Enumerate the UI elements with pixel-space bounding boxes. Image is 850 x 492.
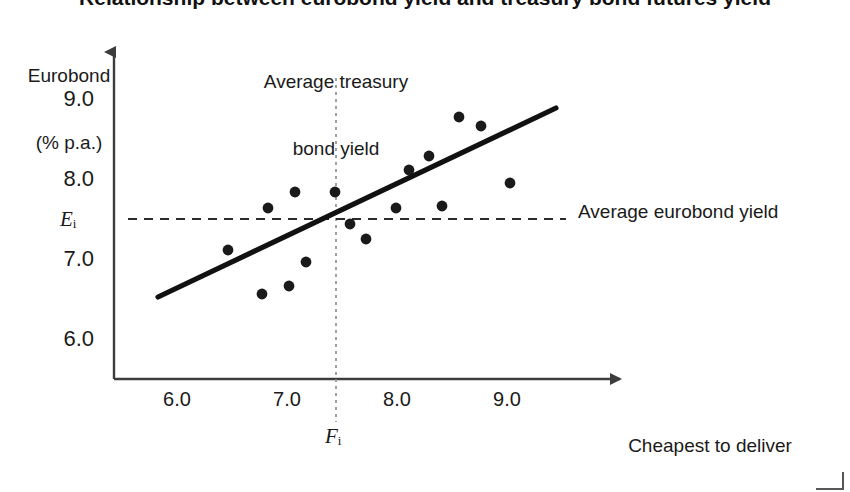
x-tick-7: 7.0: [257, 388, 317, 412]
data-point: [476, 121, 487, 132]
e-i-axis-symbol: Ei: [60, 207, 76, 232]
treasury-average-annotation: Average treasury bond yield: [228, 26, 444, 205]
chart-title: Relationship between eurobond yield and …: [0, 0, 850, 11]
data-point: [505, 178, 516, 189]
f-i-axis-symbol: Fi: [325, 424, 341, 449]
e-i-symbol-subscript: i: [73, 216, 77, 231]
y-axis-label-line2: (% p.a.): [8, 132, 130, 154]
data-point: [345, 219, 356, 230]
e-i-symbol-letter: E: [60, 207, 73, 231]
f-i-symbol-subscript: i: [338, 433, 342, 448]
data-point: [361, 234, 372, 245]
eurobond-average-annotation: Average eurobond yield: [578, 201, 778, 223]
y-tick-9: 9.0: [34, 86, 94, 112]
x-axis-label-line1: Cheapest to deliver: [570, 434, 850, 457]
treasury-annotation-line2: bond yield: [228, 138, 444, 160]
x-tick-8: 8.0: [367, 388, 427, 412]
y-tick-8: 8.0: [34, 166, 94, 192]
data-point: [223, 245, 234, 256]
x-axis-label: Cheapest to deliver bond under the treas…: [570, 388, 850, 492]
y-tick-7: 7.0: [34, 246, 94, 272]
data-point: [301, 257, 312, 268]
x-tick-9: 9.0: [477, 388, 537, 412]
x-tick-6: 6.0: [147, 388, 207, 412]
y-tick-6: 6.0: [34, 326, 94, 352]
treasury-annotation-line1: Average treasury: [228, 71, 444, 93]
data-point: [284, 281, 295, 292]
f-i-symbol-letter: F: [325, 424, 338, 448]
y-axis-label-line1: Eurobond: [8, 65, 130, 87]
page-corner-mark: [816, 472, 844, 490]
chart-figure: Relationship between eurobond yield and …: [0, 0, 850, 492]
data-point: [257, 289, 268, 300]
data-point: [454, 112, 465, 123]
